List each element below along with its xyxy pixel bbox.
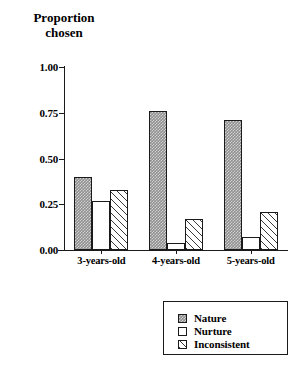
legend-label: Nurture	[194, 326, 232, 337]
x-tick-mark	[251, 250, 252, 254]
bar-3-years-old-nurture	[92, 201, 110, 250]
legend-swatch-icon	[178, 340, 187, 349]
legend-label: Nature	[194, 313, 226, 324]
legend-item-nurture: Nurture	[178, 324, 232, 338]
chart-legend: NatureNurtureInconsistent	[163, 301, 288, 355]
y-tick-label: 0.50	[16, 153, 58, 165]
bar-3-years-old-inconsistent	[110, 190, 128, 250]
y-tick-label: 0.00	[16, 244, 58, 256]
legend-label: Inconsistent	[194, 339, 250, 350]
y-tick-label: 0.25	[16, 198, 58, 210]
y-tick-label: 0.75	[16, 107, 58, 119]
bar-4-years-old-inconsistent	[185, 219, 203, 250]
x-tick-mark	[176, 250, 177, 254]
x-tick-label-3-years-old: 3-years-old	[61, 255, 141, 266]
legend-swatch-icon	[178, 314, 187, 323]
legend-swatch-icon	[178, 327, 187, 336]
bar-5-years-old-nurture	[242, 237, 260, 250]
y-tick-label: 1.00	[16, 61, 58, 73]
x-tick-label-4-years-old: 4-years-old	[136, 255, 216, 266]
plot-area	[64, 67, 288, 250]
y-axis-title: Proportion chosen	[4, 10, 124, 40]
bar-5-years-old-nature	[224, 120, 242, 250]
bar-5-years-old-inconsistent	[260, 212, 278, 250]
bar-4-years-old-nurture	[167, 243, 185, 250]
y-tick-mark	[59, 250, 64, 251]
bar-4-years-old-nature	[149, 111, 167, 250]
x-tick-label-5-years-old: 5-years-old	[211, 255, 291, 266]
x-axis-line	[58, 250, 288, 251]
x-tick-mark	[101, 250, 102, 254]
legend-item-nature: Nature	[178, 311, 226, 325]
legend-item-inconsistent: Inconsistent	[178, 337, 250, 351]
bar-chart-figure: Proportion chosen 0.000.250.500.751.00 3…	[0, 0, 299, 367]
bar-3-years-old-nature	[74, 177, 92, 250]
